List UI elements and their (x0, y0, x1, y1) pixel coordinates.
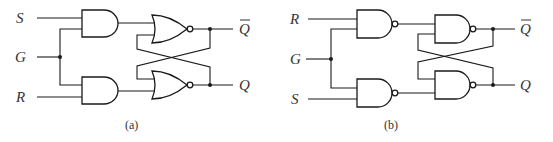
nand-gate-input-top (357, 10, 392, 38)
and-gate-bottom (82, 77, 118, 104)
output-label-qbar: Q (520, 21, 531, 37)
junction-dot (329, 57, 333, 61)
nand-bubble (470, 82, 476, 88)
nand-gate-latch-top (435, 15, 470, 43)
input-label-g: G (15, 49, 26, 65)
diagram-b: R G S Q Q (b) (289, 10, 531, 132)
nand-bubble (470, 26, 476, 32)
input-label-r: R (289, 11, 299, 27)
latch-diagrams: S G R Q Q (a) R G (0, 0, 553, 142)
caption-a: (a) (125, 118, 138, 132)
input-label-s: S (291, 91, 299, 107)
nor-bubble-bottom (187, 82, 193, 88)
nand-bubble (392, 90, 398, 96)
output-label-qbar: Q (239, 21, 250, 37)
wire-g-branch (331, 29, 357, 88)
and-gate-top (82, 10, 118, 37)
output-label-q: Q (239, 77, 250, 93)
nor-gate-bottom (152, 71, 187, 99)
output-label-q: Q (520, 77, 531, 93)
input-label-g: G (290, 51, 301, 67)
diagram-a: S G R Q Q (a) (15, 10, 250, 132)
junction-dot (58, 55, 62, 59)
nor-bubble-top (187, 26, 193, 32)
nor-gate-top (152, 15, 187, 43)
input-label-r: R (15, 89, 25, 105)
caption-b: (b) (384, 118, 398, 132)
nand-bubble (392, 21, 398, 27)
wire-g-branch (60, 29, 82, 85)
nand-gate-latch-bottom (435, 71, 470, 99)
nand-gate-input-bottom (357, 79, 392, 107)
input-label-s: S (16, 10, 24, 26)
